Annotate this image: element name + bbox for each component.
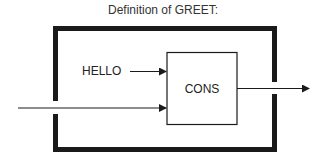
greet-diagram (0, 0, 326, 161)
cons-label: CONS (167, 82, 237, 96)
hello-label: HELLO (82, 64, 121, 78)
